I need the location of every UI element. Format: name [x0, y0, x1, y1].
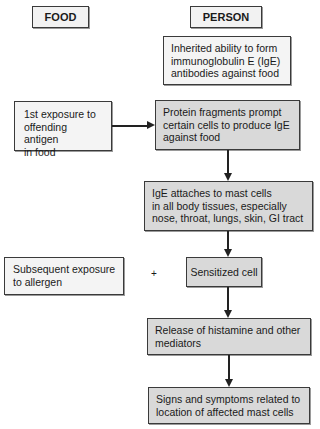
food-header-label: FOOD	[45, 11, 77, 24]
signs-symptoms-node: Signs and symptoms related to location o…	[148, 387, 310, 424]
arrow-down-icon	[224, 310, 232, 318]
food-column-header: FOOD	[32, 6, 89, 28]
inherited-ability-node: Inherited ability to form immunoglobulin…	[163, 36, 291, 85]
person-header-label: PERSON	[203, 11, 249, 24]
plus-sign: +	[151, 268, 157, 279]
arrow-ige-to-sensitized-line	[227, 231, 229, 250]
arrow-right-icon	[147, 121, 155, 129]
ige-attaches-node: IgE attaches to mast cells in all body t…	[144, 181, 313, 231]
subsequent-exposure-node: Subsequent exposure to allergen	[4, 257, 124, 295]
sensitized-cell-label: Sensitized cell	[190, 266, 257, 279]
person-column-header: PERSON	[190, 6, 262, 28]
arrow-sensitized-to-release-line	[227, 287, 229, 311]
arrow-down-icon	[224, 249, 232, 257]
protein-fragments-node: Protein fragments prompt certain cells t…	[155, 100, 300, 150]
release-histamine-node: Release of histamine and other mediators	[147, 318, 311, 355]
arrow-protein-to-ige-line	[227, 150, 229, 174]
arrow-down-icon	[225, 379, 233, 387]
arrow-release-to-signs-line	[228, 355, 230, 380]
first-exposure-node: 1st exposure to offending antigen in foo…	[14, 101, 112, 151]
sensitized-cell-node: Sensitized cell	[186, 257, 262, 287]
arrow-exposure-to-protein-line	[112, 125, 148, 127]
arrow-down-icon	[224, 173, 232, 181]
